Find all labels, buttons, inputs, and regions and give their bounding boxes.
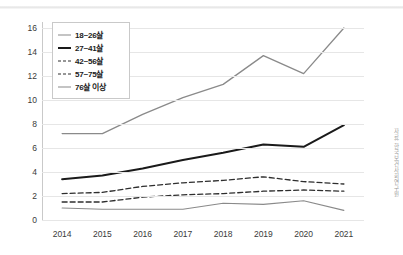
legend-item-label: 18~26살 [75,29,103,40]
legend-item-label: 27~41살 [75,42,103,53]
y-tick-label: 10 [7,96,37,105]
y-tick-label: 14 [7,48,37,57]
legend-line-icon [58,82,71,91]
gridline [42,220,364,221]
x-tick-label: 2019 [240,230,286,239]
legend-line-icon [58,43,71,52]
legend-item[interactable]: 18~26살 [58,28,124,41]
x-tick-label: 2020 [281,230,327,239]
y-tick-label: 8 [7,120,37,129]
legend-item[interactable]: 42~56살 [58,54,124,67]
y-tick-label: 4 [7,168,37,177]
x-tick-label: 2018 [200,230,246,239]
legend-line-icon [58,30,71,39]
line-chart: 0246810121416 18~26살27~41살42~56살57~75살76… [0,0,403,255]
gridline [42,148,364,149]
y-tick-label: 16 [7,24,37,33]
legend-item-label: 76살 이상 [75,81,106,92]
legend-line-icon [58,56,71,65]
gridline [42,196,364,197]
x-tick-label: 2017 [160,230,206,239]
series-line [62,177,344,194]
x-tick-label: 2016 [120,230,166,239]
chart-legend: 18~26살27~41살42~56살57~75살76살 이상 [52,22,130,99]
legend-item[interactable]: 76살 이상 [58,80,124,93]
legend-item-label: 57~75살 [75,68,103,79]
legend-item[interactable]: 57~75살 [58,67,124,80]
y-tick-label: 0 [7,216,37,225]
gridline [42,124,364,125]
x-tick-label: 2015 [79,230,125,239]
x-tick-label: 2014 [39,230,85,239]
gridline [42,100,364,101]
gridline [42,172,364,173]
y-tick-label: 12 [7,72,37,81]
legend-line-icon [58,69,71,78]
source-note: 자료: 한국보건사회연구원 [393,128,401,197]
x-tick-label: 2021 [321,230,367,239]
legend-item-label: 42~56살 [75,55,103,66]
y-tick-label: 2 [7,192,37,201]
y-tick-label: 6 [7,144,37,153]
legend-item[interactable]: 27~41살 [58,41,124,54]
